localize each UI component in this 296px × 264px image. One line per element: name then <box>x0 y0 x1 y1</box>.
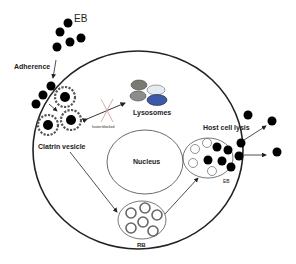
rb-inclusion <box>118 201 166 239</box>
adherence-arrow <box>53 60 56 78</box>
lysosomes-label: Lysosomes <box>133 109 171 117</box>
chlamydia-life-cycle-diagram: EB Adherence Clatrin vesicle fusion bloc… <box>0 0 296 264</box>
lysosomes <box>130 80 167 106</box>
adherence-label: Adherence <box>14 63 50 70</box>
eb-inclusion-label: EB <box>223 178 230 184</box>
fusion-blocked-cross-icon <box>101 99 113 122</box>
fusion-blocked-label: fusion blocked <box>92 125 114 129</box>
vesicle-to-rb-arrow <box>70 152 117 212</box>
fusion-arrow <box>87 103 125 119</box>
rb-to-eb-arrow <box>165 178 198 214</box>
clatrin-vesicle-label: Clatrin vesicle <box>38 143 86 150</box>
host-cell-lysis-label: Host cell lysis <box>203 124 250 132</box>
clatrin-vesicle-2 <box>38 115 58 135</box>
eb-inclusion <box>183 138 246 178</box>
eb-label-top: EB <box>74 13 88 24</box>
nucleus-label: Nucleus <box>133 158 160 165</box>
adhered-eb-dots <box>32 82 56 109</box>
clatrin-vesicle-3 <box>61 110 81 130</box>
clatrin-vesicle-1 <box>55 87 75 107</box>
rb-label: RB <box>137 242 146 248</box>
released-eb-dots <box>244 111 282 157</box>
internalization-arrow <box>49 104 57 111</box>
